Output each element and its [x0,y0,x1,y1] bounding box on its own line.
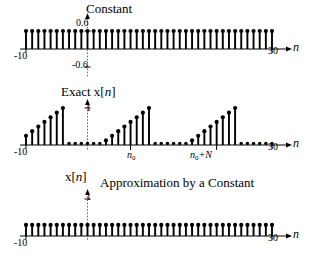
xtick-label-right: 30 [268,142,278,152]
annotation-n0: n0 [127,150,136,162]
axis-label-n: n [293,137,299,149]
panel-title-exact-prefix: Exact x[ [61,84,105,99]
plot-panel-exact: Exact x[n] 1 -10 30 n n0 n0+N [0,84,309,168]
panel-title-constant: Constant [86,2,132,15]
annotation-n0-plus-N: n0+N [190,150,212,162]
stem-plot-constant [0,0,309,84]
annotation-n0-sub: 0 [132,154,136,162]
axis-label-n: n [293,41,299,53]
xtick-label-left: -10 [14,238,27,248]
ylabel-xn-prefix: x[ [65,169,76,184]
annotation-n0N-suffix: +N [199,149,212,160]
ytick-label-negative: -0.6 [72,60,88,70]
panel-title-exact: Exact x[n] [61,85,116,98]
plot-panel-constant: Constant 0.6 -0.6 -10 30 n [0,0,309,84]
axis-label-n: n [293,228,299,240]
xtick-label-right: 30 [268,46,278,56]
plot-panel-approx: x[n] Approximation by a Constant 1 -10 3… [0,168,309,261]
ytick-label-positive: 0.6 [76,18,89,28]
panel-title-approx: Approximation by a Constant [100,176,254,189]
ylabel-xn: x[n] [65,170,87,183]
figure-root: Constant 0.6 -0.6 -10 30 n Exact x[n] 1 … [0,0,309,261]
ylabel-xn-suffix: ] [82,169,86,184]
ytick-label-one: 1 [86,192,91,202]
stem-plot-exact [0,84,309,168]
ytick-label-one: 1 [86,103,91,113]
xtick-label-right: 30 [268,233,278,243]
xtick-label-left: -10 [14,51,27,61]
xtick-label-left: -10 [14,147,27,157]
panel-title-exact-suffix: ] [111,84,115,99]
